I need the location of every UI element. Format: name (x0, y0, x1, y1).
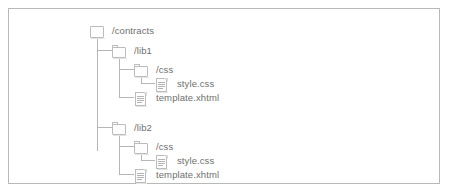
tree-node-label: /lib1 (134, 46, 152, 56)
tree-node-label: /css (156, 142, 173, 152)
connector-lib1-trunk (119, 56, 120, 97)
connector-contracts-lib1 (97, 50, 112, 51)
folder-icon (134, 64, 149, 77)
file-icon (155, 78, 170, 91)
tree-node-lib1-template[interactable]: template.xhtml (134, 90, 219, 106)
tree-node-lib2[interactable]: /lib2 (112, 120, 152, 136)
tree-node-label: style.css (177, 79, 214, 89)
connector-lib2css-style (141, 160, 155, 161)
tree-node-contracts[interactable]: /contracts (90, 23, 154, 39)
folder-icon (134, 141, 149, 154)
file-tree: /contracts /lib1 /css style.css (9, 9, 441, 185)
folder-icon (112, 122, 127, 135)
tree-node-label: /lib2 (134, 123, 152, 133)
tree-node-label: template.xhtml (156, 93, 219, 103)
folder-icon (90, 25, 105, 38)
tree-node-lib2-template[interactable]: template.xhtml (134, 167, 219, 183)
connector-lib1css-style (141, 83, 155, 84)
connector-lib1-css (119, 69, 134, 70)
tree-node-lib1[interactable]: /lib1 (112, 43, 152, 59)
tree-node-label: style.css (177, 156, 214, 166)
tree-node-label: template.xhtml (156, 170, 219, 180)
file-icon (134, 169, 149, 182)
connector-lib2-trunk (119, 133, 120, 174)
tree-node-label: /css (156, 65, 173, 75)
connector-contracts-trunk (97, 37, 98, 151)
connector-lib2-template (119, 174, 134, 175)
connector-lib2-css (119, 146, 134, 147)
file-icon (134, 92, 149, 105)
connector-lib1-template (119, 97, 134, 98)
folder-icon (112, 45, 127, 58)
tree-node-label: /contracts (112, 26, 154, 36)
diagram-frame: /contracts /lib1 /css style.css (8, 8, 440, 184)
file-icon (155, 155, 170, 168)
connector-contracts-lib2 (97, 127, 112, 128)
